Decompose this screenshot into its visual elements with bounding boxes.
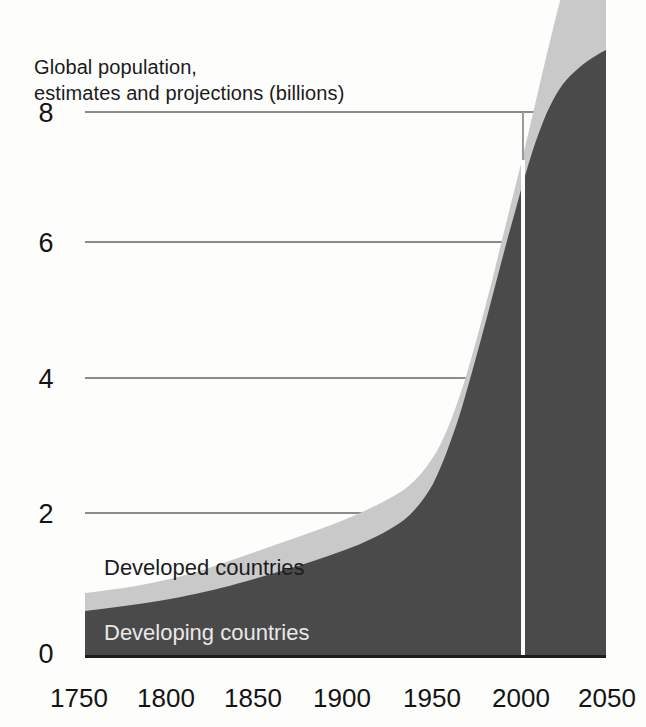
developing-countries-label: Developing countries xyxy=(104,620,309,645)
x-tick-1800: 1800 xyxy=(137,683,195,713)
x-axis-tick-labels: 1750 1800 1850 1900 1950 2000 2050 xyxy=(50,683,636,713)
x-tick-1950: 1950 xyxy=(403,683,461,713)
y-tick-0: 0 xyxy=(38,639,53,669)
y-tick-2: 2 xyxy=(38,499,53,529)
population-area-chart: 8 6 4 2 0 1750 1800 1850 1900 1950 2000 … xyxy=(0,0,646,727)
chart-page: Global population, estimates and project… xyxy=(0,0,646,727)
x-tick-1900: 1900 xyxy=(313,683,371,713)
y-tick-8: 8 xyxy=(38,98,53,128)
y-tick-4: 4 xyxy=(38,364,53,394)
x-tick-2000: 2000 xyxy=(492,683,550,713)
y-axis-tick-labels: 8 6 4 2 0 xyxy=(38,98,53,669)
x-tick-2050: 2050 xyxy=(578,683,636,713)
x-tick-1850: 1850 xyxy=(224,683,282,713)
y-tick-6: 6 xyxy=(38,228,53,258)
developed-countries-label: Developed countries xyxy=(104,555,305,580)
x-tick-1750: 1750 xyxy=(50,683,108,713)
